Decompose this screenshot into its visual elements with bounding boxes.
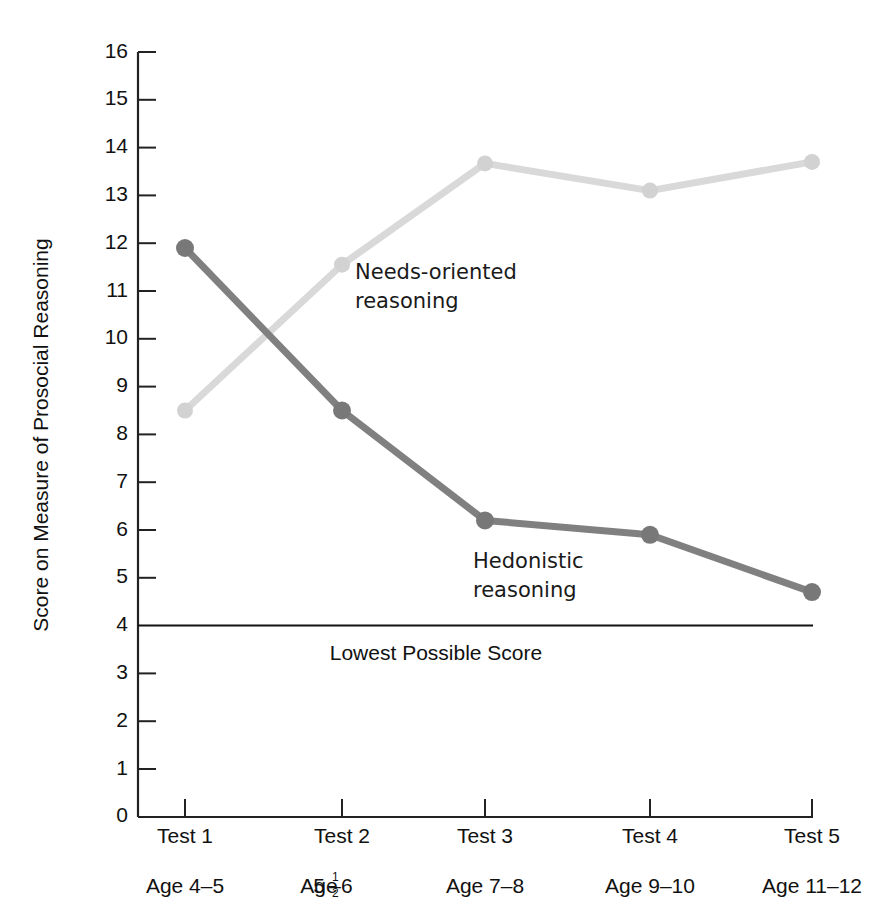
- needs-oriented-point-test-5: [804, 154, 820, 170]
- annotation-needs-oriented: Needs-oriented reasoning: [355, 260, 517, 313]
- x-tick-label-test-5: Test 5: [784, 824, 840, 847]
- y-tick-label-4: 4: [116, 612, 128, 635]
- y-tick-label-0: 0: [116, 803, 128, 826]
- x-sublabel-age-2-suffix: –6: [329, 874, 352, 897]
- hedonistic-point-test-4: [641, 526, 659, 544]
- x-tick-label-test-4: Test 4: [622, 824, 678, 847]
- needs-oriented-line: [185, 162, 812, 411]
- hedonistic-point-test-1: [176, 239, 194, 257]
- hedonistic-point-test-2: [333, 402, 351, 420]
- series-needs-oriented-reasoning: [177, 154, 820, 419]
- annotation-needs-oriented-line2: reasoning: [355, 289, 459, 313]
- y-tick-label-10: 10: [105, 325, 128, 348]
- needs-oriented-point-test-1: [177, 403, 193, 419]
- y-tick-label-7: 7: [116, 469, 128, 492]
- needs-oriented-point-test-2: [334, 257, 350, 273]
- x-sublabel-age-3: Age 7–8: [446, 874, 524, 897]
- y-tick-label-3: 3: [116, 660, 128, 683]
- series-hedonistic-reasoning: [176, 239, 821, 601]
- annotation-hedonistic: Hedonistic reasoning: [473, 549, 584, 602]
- annotation-hedonistic-line2: reasoning: [473, 578, 577, 602]
- x-tick-label-test-3: Test 3: [457, 824, 513, 847]
- y-tick-marks: [138, 52, 156, 769]
- y-tick-label-15: 15: [105, 86, 128, 109]
- x-tick-label-test-2: Test 2: [314, 824, 370, 847]
- x-tick-label-test-1: Test 1: [157, 824, 213, 847]
- hedonistic-point-test-3: [476, 511, 494, 529]
- annotation-needs-oriented-line1: Needs-oriented: [355, 260, 517, 284]
- y-tick-label-2: 2: [116, 708, 128, 731]
- y-tick-label-6: 6: [116, 517, 128, 540]
- y-tick-label-12: 12: [105, 230, 128, 253]
- y-tick-label-11: 11: [106, 278, 128, 301]
- annotation-lowest-possible-score: Lowest Possible Score: [330, 641, 542, 664]
- needs-oriented-point-test-4: [642, 183, 658, 199]
- y-tick-label-8: 8: [116, 421, 128, 444]
- y-tick-label-13: 13: [105, 182, 128, 205]
- y-tick-label-9: 9: [116, 373, 128, 396]
- x-sublabel-age-4: Age 9–10: [605, 874, 695, 897]
- x-sublabel-age-2: Age 5 1 2 –6: [300, 870, 352, 900]
- y-axis-title: Score on Measure of Prosocial Reasoning: [29, 238, 52, 631]
- hedonistic-point-test-5: [803, 583, 821, 601]
- hedonistic-line: [185, 248, 812, 592]
- y-tick-label-5: 5: [116, 564, 128, 587]
- x-sublabel-age-5: Age 11–12: [762, 874, 862, 897]
- annotation-hedonistic-line1: Hedonistic: [473, 549, 584, 573]
- x-sublabel-age-2-whole: 5: [313, 874, 325, 897]
- prosocial-reasoning-line-chart: 16 15 14 13 12 11 10 9 8 7 6 5 4 3 2 1 0…: [0, 0, 892, 916]
- y-tick-label-14: 14: [105, 134, 129, 157]
- needs-oriented-point-test-3: [477, 155, 493, 171]
- x-sublabel-age-1: Age 4–5: [146, 874, 224, 897]
- x-tick-marks: [185, 799, 812, 817]
- y-tick-label-16: 16: [105, 39, 128, 62]
- y-tick-label-1: 1: [116, 756, 128, 779]
- figure-container: 16 15 14 13 12 11 10 9 8 7 6 5 4 3 2 1 0…: [0, 0, 892, 916]
